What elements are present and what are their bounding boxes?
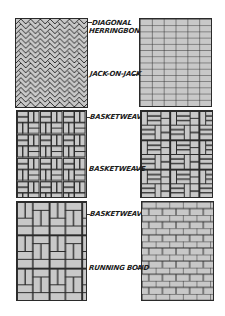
basketweave-3-label: BASKETWEAVE (90, 211, 147, 218)
basketweave-2-pattern (141, 111, 212, 197)
running-bond-leader (137, 268, 141, 269)
jack-on-jack-leader (133, 74, 139, 75)
basketweave-1-label: BASKETWEAVE (90, 114, 147, 121)
basketweave-1-panel (16, 110, 87, 198)
diagonal-herringbone-label-line2: HERRINGBONE (89, 28, 145, 35)
running-bond-pattern (142, 202, 213, 300)
basketweave-2-leader (133, 169, 140, 170)
diagonal-herringbone-leader (88, 22, 92, 23)
diagonal-herringbone-panel (15, 18, 88, 108)
jack-on-jack-panel (139, 18, 212, 107)
diagonal-herringbone-label-line1: DIAGONAL (92, 20, 132, 27)
basketweave-3-pattern (17, 202, 86, 300)
running-bond-panel (141, 201, 214, 301)
diagonal-herringbone-pattern (16, 19, 87, 107)
basketweave-1-pattern (17, 111, 86, 197)
basketweave-3-leader (87, 214, 90, 215)
basketweave-2-panel (140, 110, 213, 198)
basketweave-3-panel (16, 201, 87, 301)
basketweave-1-leader (87, 117, 90, 118)
jack-on-jack-pattern (140, 19, 211, 106)
